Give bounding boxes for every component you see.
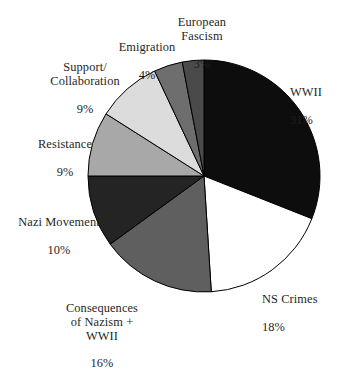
slice-label-support-collaboration-name: Support/ Collaboration — [33, 61, 137, 89]
slice-label-ns-crimes-percent: 18% — [262, 321, 348, 335]
slice-label-support-collaboration-percent: 9% — [33, 103, 137, 117]
slice-label-consequences: Consequences of Nazism + WWII 16% — [44, 288, 160, 371]
slice-label-wwii: WWII 31% — [290, 72, 348, 141]
slice-label-resistance-percent: 9% — [18, 166, 112, 180]
slice-label-nazi-movement-percent: 10% — [4, 244, 114, 258]
slice-label-resistance-name: Resistance — [18, 138, 112, 152]
slice-label-wwii-percent: 31% — [290, 114, 348, 128]
slice-label-support-collaboration: Support/ Collaboration 9% — [33, 47, 137, 130]
slice-label-nazi-movement-name: Nazi Movement — [4, 216, 114, 230]
slice-label-nazi-movement: Nazi Movement 10% — [4, 202, 114, 271]
slice-label-consequences-name: Consequences of Nazism + WWII — [44, 302, 160, 344]
slice-label-consequences-percent: 16% — [44, 357, 160, 371]
slice-label-ns-crimes-name: NS Crimes — [262, 293, 348, 307]
slice-label-ns-crimes: NS Crimes 18% — [262, 279, 348, 348]
slice-label-wwii-name: WWII — [290, 86, 348, 100]
slice-label-resistance: Resistance 9% — [18, 124, 112, 193]
